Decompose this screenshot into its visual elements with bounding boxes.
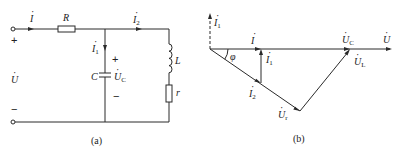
- dot-UC: ·: [344, 27, 347, 38]
- dot-I1: ·: [268, 47, 271, 58]
- dot-source-voltage: ·: [13, 67, 16, 78]
- current-arrow-total: [28, 27, 34, 31]
- current-arrow-I2: [136, 27, 142, 31]
- dot-current-total: ·: [31, 6, 34, 17]
- arrowhead-I1: [259, 49, 263, 55]
- caption-a: (a): [91, 135, 102, 147]
- caption-b: (b): [293, 133, 305, 145]
- angle-arc-phi: [225, 49, 228, 59]
- terminal-top: [11, 27, 15, 31]
- dot-UL: ·: [356, 49, 359, 60]
- phasor-UL: [300, 52, 348, 111]
- arrowhead-U: [386, 47, 392, 51]
- cap-minus-sign: −: [113, 90, 119, 102]
- dot-current-I1: ·: [94, 36, 97, 47]
- current-arrow-I1: [103, 45, 107, 51]
- source-plus-sign: +: [11, 34, 17, 46]
- phasor-I2-Ur: [210, 49, 300, 111]
- phasor-diagram: I1 · I · φ I1 · I2 · Ur · UL · UC · U · …: [208, 10, 392, 145]
- dot-current-I2: ·: [135, 7, 138, 18]
- dot-I-total: ·: [253, 28, 256, 39]
- label-resistor-R: R: [62, 12, 69, 23]
- dot-I2: ·: [251, 81, 254, 92]
- arrowhead-I-total: [255, 47, 261, 51]
- label-inductor-L: L: [174, 55, 181, 66]
- inductor-L: [169, 44, 172, 73]
- resistor-R: [58, 26, 75, 32]
- source-minus-sign: −: [11, 103, 17, 115]
- diagram-canvas: I · R + − U · I1 · + − C UC · I2 · L r (…: [0, 0, 398, 157]
- dot-U: ·: [385, 27, 388, 38]
- circuit-diagram: I · R + − U · I1 · + − C UC · I2 · L r (…: [11, 6, 181, 147]
- arrowhead-I1-reference: [208, 13, 212, 19]
- terminal-bottom: [11, 120, 15, 124]
- dot-Ur: ·: [280, 102, 283, 113]
- label-resistor-r: r: [176, 87, 180, 98]
- resistor-r: [166, 85, 172, 102]
- label-capacitor-C: C: [91, 71, 98, 82]
- dot-voltage-UC: ·: [116, 64, 119, 75]
- dot-I1-reference: ·: [216, 10, 219, 21]
- label-phi: φ: [230, 51, 236, 62]
